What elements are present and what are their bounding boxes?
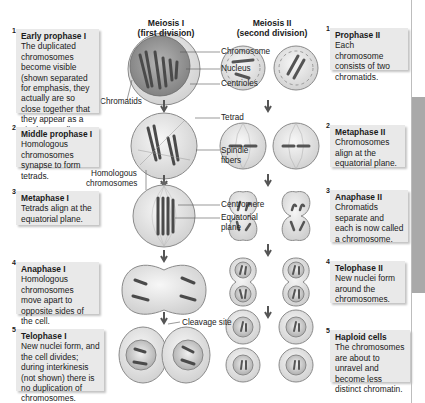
step-box-metaphase-1: Metaphase I Tetrads align at the equator… [16, 191, 99, 225]
label-tetrad: Tetrad [221, 113, 244, 123]
meiosis-2-subtitle: (second division) [232, 28, 312, 38]
meiosis-1-title: Meiosis I [136, 18, 196, 28]
label-centromere: Centromere [221, 200, 264, 210]
step-box-telophase-1: Telophase I New nuclei form, and the cel… [16, 329, 104, 391]
step-box-telophase-2: Telophase II New nuclei form around the … [330, 261, 405, 303]
meiosis-1-heading: Meiosis I (first division) [136, 18, 196, 38]
step-title: Metaphase II [335, 127, 401, 137]
step-description: Chromosomes align at the equatorial plan… [335, 137, 397, 168]
step-title: Telophase II [335, 263, 401, 273]
step-title: Early prophase I [21, 31, 95, 41]
meiosis-1-subtitle: (first division) [136, 28, 196, 38]
cell-anaphase-1 [122, 265, 206, 314]
meiosis-diagram: Meiosis I (first division) Meiosis II (s… [0, 0, 425, 403]
step-title: Metaphase I [21, 193, 95, 203]
step-title: Prophase II [335, 30, 404, 40]
step-description: The chromosomes are about to unravel and… [335, 342, 404, 394]
label-cleavage-site: Cleavage site [182, 318, 232, 328]
step-title: Middle prophase I [21, 129, 95, 139]
step-box-middle-prophase-1: Middle prophase I Homologous chromosomes… [16, 127, 99, 167]
label-nucleus: Nucleus [221, 64, 251, 74]
step-box-prophase-2: Prophase II Each chromosome consists of … [330, 28, 408, 70]
step-title: Anaphase I [21, 264, 95, 274]
step-box-metaphase-2: Metaphase II Chromosomes align at the eq… [330, 125, 405, 167]
label-plane: plane [221, 223, 241, 233]
label-chromosome: Chromosome [221, 47, 270, 57]
label-homologous: Homologous [91, 169, 137, 179]
step-description: New nuclei form around the chromosomes. [335, 273, 395, 304]
step-title: Anaphase II [335, 192, 404, 202]
step-box-anaphase-2: Anaphase II Chromatids separate and each… [330, 190, 408, 242]
step-description: Each chromosome consists of two chromati… [335, 40, 390, 81]
step-description: The duplicated chromosomes become visibl… [21, 41, 90, 134]
step-box-anaphase-1: Anaphase I Homologous chromosomes move a… [16, 262, 99, 314]
step-description: Chromatids separate and each is now call… [335, 202, 403, 243]
label-fibers: fibers [221, 156, 241, 166]
side-tab[interactable] [412, 97, 425, 293]
step-description: Homologous chromosomes synapse to form t… [21, 139, 81, 180]
cell-telophase-2 [230, 258, 309, 306]
cell-early-prophase-1 [127, 33, 220, 105]
step-description: Homologous chromosomes move apart to opp… [21, 274, 84, 326]
step-title: Telophase I [21, 331, 100, 341]
step-description: Tetrads align at the equatorial plane. [21, 203, 92, 223]
cell-haploid [226, 310, 313, 382]
step-description: New nuclei form, and the cell divides; d… [21, 341, 100, 403]
step-box-early-prophase-1: Early prophase I The duplicated chromoso… [16, 29, 99, 113]
label-equatorial: Equatorial [221, 213, 258, 223]
label-centrioles: Centrioles [221, 79, 258, 89]
step-title: Haploid cells [335, 332, 406, 342]
cell-middle-prophase-1 [131, 113, 220, 190]
step-box-haploid-cells: Haploid cells The chromosomes are about … [330, 330, 410, 382]
meiosis-2-heading: Meiosis II (second division) [232, 18, 312, 38]
label-spindle: Spindle [221, 146, 248, 156]
meiosis-2-title: Meiosis II [232, 18, 312, 28]
cell-metaphase-1 [133, 180, 220, 247]
label-chromatids: Chromatids [100, 97, 142, 107]
cell-telophase-1 [119, 327, 210, 383]
